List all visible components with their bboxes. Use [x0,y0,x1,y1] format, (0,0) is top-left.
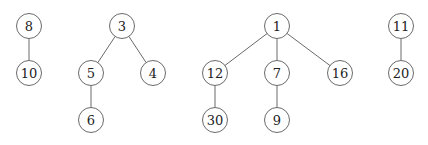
tree-node-4: 4 [141,61,166,86]
node-label: 11 [393,19,410,34]
tree-node-6: 6 [79,108,104,133]
tree-node-8: 8 [17,14,42,39]
node-label: 5 [87,66,95,81]
tree-node-3: 3 [110,14,135,39]
forest-diagram: 81035461127163091120 [0,0,428,145]
node-label: 8 [25,19,33,34]
tree-node-20: 20 [389,61,414,86]
node-label: 7 [273,66,281,81]
edge-1-12 [225,34,267,66]
edge-3-5 [98,36,115,62]
nodes-layer: 81035461127163091120 [17,14,414,133]
tree-node-11: 11 [389,14,414,39]
tree-node-12: 12 [203,61,228,86]
edge-1-16 [287,33,330,65]
node-label: 3 [118,19,126,34]
node-label: 1 [273,19,281,34]
edge-3-4 [129,36,146,62]
node-label: 30 [207,113,224,128]
node-label: 16 [332,66,349,81]
node-label: 6 [87,113,95,128]
node-label: 10 [21,66,38,81]
node-label: 12 [207,66,224,81]
tree-node-10: 10 [17,61,42,86]
node-label: 9 [273,113,281,128]
tree-node-30: 30 [203,108,228,133]
tree-node-5: 5 [79,61,104,86]
diagram-canvas: 81035461127163091120 [0,0,428,145]
node-label: 20 [393,66,410,81]
node-label: 4 [149,66,157,81]
tree-node-16: 16 [328,61,353,86]
tree-node-7: 7 [265,61,290,86]
tree-node-9: 9 [265,108,290,133]
tree-node-1: 1 [265,14,290,39]
